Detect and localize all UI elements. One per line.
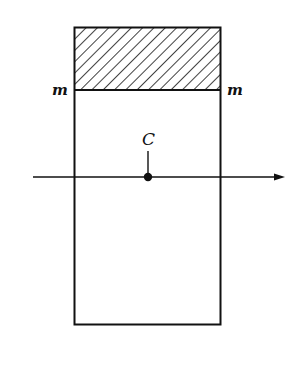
diagram-canvas: m m C xyxy=(0,0,297,367)
label-m-left: m xyxy=(52,81,68,99)
label-m-right: m xyxy=(227,81,243,99)
centroid-dot xyxy=(144,173,152,181)
hatched-region xyxy=(75,28,220,90)
cross-section-diagram: m m C xyxy=(0,0,297,367)
label-centroid-c: C xyxy=(142,129,155,149)
axis-arrow-icon xyxy=(274,174,285,181)
